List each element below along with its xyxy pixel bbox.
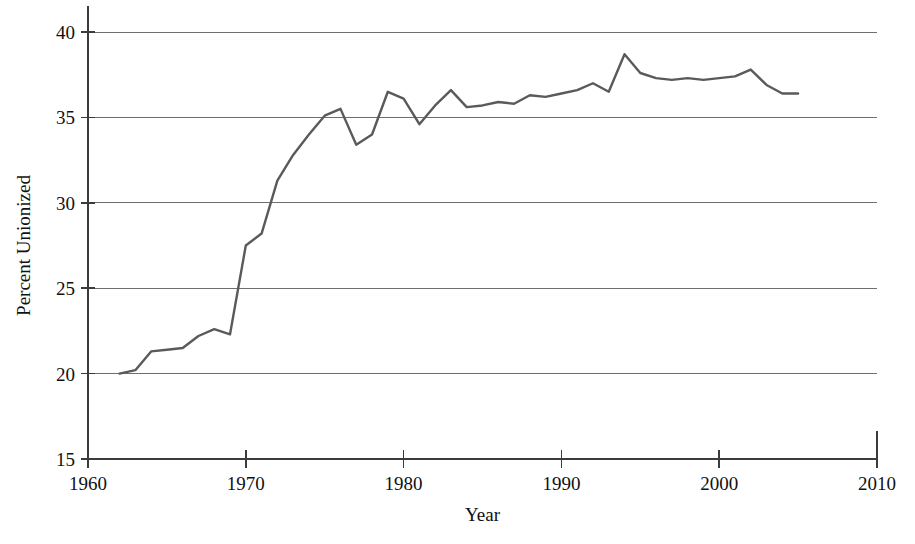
y-axis-ticks: 152025303540 [56, 22, 95, 470]
x-tick-label-1970: 1970 [227, 473, 265, 494]
y-tick-label-30: 30 [56, 193, 75, 214]
x-tick-label-1980: 1980 [385, 473, 423, 494]
y-tick-label-35: 35 [56, 107, 75, 128]
y-tick-label-15: 15 [56, 449, 75, 470]
x-tick-label-2000: 2000 [700, 473, 738, 494]
y-tick-label-25: 25 [56, 278, 75, 299]
axes [88, 6, 877, 459]
chart-container: 152025303540 196019701980199020002010 Ye… [0, 0, 915, 544]
x-tick-label-1990: 1990 [542, 473, 580, 494]
x-tick-label-1960: 1960 [69, 473, 107, 494]
y-axis-title: Percent Unionized [13, 175, 34, 316]
y-tick-label-20: 20 [56, 364, 75, 385]
x-axis-ticks: 196019701980199020002010 [69, 450, 896, 494]
line-chart: 152025303540 196019701980199020002010 Ye… [0, 0, 915, 544]
y-tick-label-40: 40 [56, 22, 75, 43]
x-tick-label-2010: 2010 [858, 473, 896, 494]
series-line-percent-unionized [120, 54, 799, 373]
x-axis-title: Year [465, 504, 501, 525]
gridlines [88, 32, 877, 374]
data-series-group [120, 54, 799, 373]
